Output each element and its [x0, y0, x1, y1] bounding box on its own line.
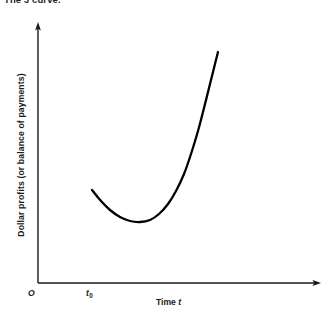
- j-curve-line: [92, 52, 218, 222]
- x-axis-label-variable: t: [178, 297, 181, 307]
- x-axis-label: Time t: [156, 297, 181, 307]
- y-axis-label: Dollar profits (or balance of payments): [16, 73, 26, 236]
- tick-subscript: 0: [89, 292, 93, 299]
- origin-label: O: [28, 288, 35, 298]
- x-tick-label-t0: t0: [86, 288, 92, 298]
- x-axis-label-text: Time: [156, 297, 176, 307]
- figure-caption: The J curve.: [4, 0, 61, 6]
- j-curve-plot: [0, 0, 328, 314]
- figure-root: The J curve. Dollar profits (or balance …: [0, 0, 328, 314]
